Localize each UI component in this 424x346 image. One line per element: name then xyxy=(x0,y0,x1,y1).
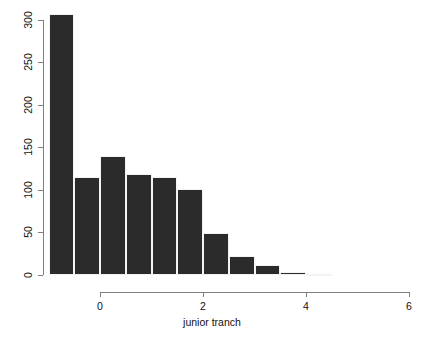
histogram-bar xyxy=(126,174,152,275)
y-tick-mark xyxy=(38,147,43,148)
histogram-bar xyxy=(306,274,332,276)
histogram-bar xyxy=(100,156,126,275)
histogram-bar xyxy=(152,177,178,275)
y-tick-label: 0 xyxy=(21,261,35,289)
histogram-bars xyxy=(0,0,424,346)
y-tick-mark xyxy=(38,20,43,21)
x-tick-mark xyxy=(100,292,101,297)
histogram-plot: 050100150200250300 0246 junior tranch xyxy=(0,0,424,346)
plot-area: 050100150200250300 0246 junior tranch xyxy=(0,0,424,346)
x-tick-mark xyxy=(203,292,204,297)
y-tick-mark xyxy=(38,275,43,276)
y-tick-label: 300 xyxy=(21,6,35,34)
y-tick-label: 100 xyxy=(21,176,35,204)
histogram-bar xyxy=(74,177,100,275)
y-tick-mark xyxy=(38,232,43,233)
y-tick-mark xyxy=(38,105,43,106)
histogram-bar xyxy=(229,256,255,275)
x-tick-label: 6 xyxy=(394,300,424,312)
x-tick-label: 0 xyxy=(85,300,115,312)
y-tick-mark xyxy=(38,190,43,191)
histogram-bar xyxy=(49,14,75,275)
x-axis-title: junior tranch xyxy=(0,316,424,328)
histogram-bar xyxy=(280,272,306,275)
histogram-bar xyxy=(177,189,203,275)
x-tick-label: 4 xyxy=(291,300,321,312)
x-axis-line xyxy=(100,292,409,293)
x-tick-mark xyxy=(306,292,307,297)
y-axis-line xyxy=(43,20,44,276)
y-tick-label: 200 xyxy=(21,91,35,119)
x-tick-label: 2 xyxy=(188,300,218,312)
y-tick-label: 150 xyxy=(21,133,35,161)
histogram-bar xyxy=(203,233,229,275)
histogram-bar xyxy=(255,265,281,275)
x-tick-mark xyxy=(409,292,410,297)
y-tick-label: 250 xyxy=(21,48,35,76)
y-tick-mark xyxy=(38,62,43,63)
y-tick-label: 50 xyxy=(21,218,35,246)
